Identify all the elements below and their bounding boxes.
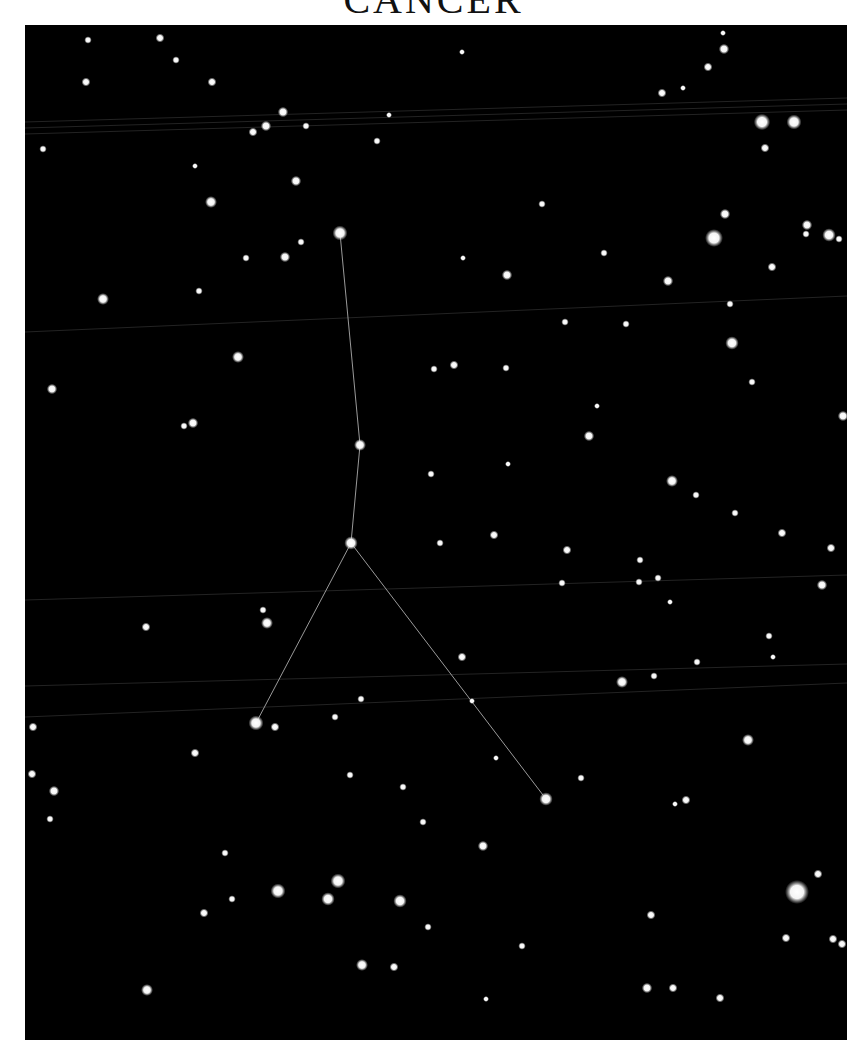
star <box>373 137 381 145</box>
star <box>28 770 37 779</box>
star <box>278 107 289 118</box>
star <box>271 884 286 899</box>
star <box>483 996 489 1002</box>
star <box>642 983 653 994</box>
star <box>817 580 828 591</box>
star <box>331 874 346 889</box>
star <box>802 230 810 238</box>
star <box>622 320 630 328</box>
star <box>636 556 644 564</box>
star <box>357 695 365 703</box>
star <box>188 418 199 429</box>
star <box>822 228 836 242</box>
star <box>538 200 546 208</box>
constellation-star-gamma <box>354 439 366 451</box>
constellation-star-iota <box>333 226 348 241</box>
constellation-line <box>256 543 351 723</box>
star <box>650 672 658 680</box>
constellation-star-alpha <box>249 716 264 731</box>
star <box>261 121 272 132</box>
star <box>761 144 770 153</box>
star <box>208 78 217 87</box>
constellation-line <box>340 233 360 445</box>
star <box>765 632 773 640</box>
star <box>82 78 91 87</box>
faint-line <box>25 110 847 134</box>
star <box>97 293 109 305</box>
star <box>838 411 847 422</box>
constellation-lines <box>256 233 546 799</box>
star <box>156 34 165 43</box>
star <box>493 755 499 761</box>
faint-line <box>25 664 847 686</box>
constellation-stars <box>249 226 553 806</box>
star <box>518 942 526 950</box>
star <box>29 723 38 732</box>
star <box>731 509 739 517</box>
star <box>49 786 60 797</box>
star <box>505 461 511 467</box>
star <box>460 255 466 261</box>
star <box>726 300 734 308</box>
star <box>563 546 572 555</box>
constellation-line <box>351 543 546 799</box>
star <box>705 229 723 247</box>
star <box>356 959 368 971</box>
star <box>478 841 489 852</box>
star <box>682 796 691 805</box>
star <box>142 623 151 632</box>
page-title: CANCER <box>0 0 867 22</box>
star <box>785 880 809 904</box>
star <box>291 176 302 187</box>
faint-line <box>25 296 847 332</box>
star <box>427 470 435 478</box>
star <box>502 364 510 372</box>
star-chart <box>25 25 847 1040</box>
star <box>346 771 354 779</box>
star <box>436 539 444 547</box>
star <box>200 909 209 918</box>
star <box>838 940 847 949</box>
star <box>261 617 273 629</box>
star <box>297 238 305 246</box>
star <box>141 984 153 996</box>
star <box>616 676 628 688</box>
star <box>754 114 771 131</box>
star <box>331 713 339 721</box>
star <box>386 112 392 118</box>
star <box>192 163 198 169</box>
star <box>704 63 713 72</box>
star <box>490 531 499 540</box>
star <box>748 378 756 386</box>
faint-line <box>25 683 847 717</box>
star <box>692 491 700 499</box>
faint-line <box>25 104 847 128</box>
star <box>719 44 730 55</box>
star <box>768 263 777 272</box>
star <box>459 49 465 55</box>
star <box>829 935 838 944</box>
star <box>280 252 291 263</box>
star <box>720 30 726 36</box>
star <box>221 849 229 857</box>
star <box>321 892 335 906</box>
star <box>720 209 731 220</box>
star <box>680 85 686 91</box>
star <box>458 653 467 662</box>
star <box>716 994 725 1003</box>
constellation-star-beta <box>539 792 553 806</box>
star <box>600 249 608 257</box>
constellation-star-delta <box>344 536 358 550</box>
star <box>647 911 656 920</box>
star <box>693 658 701 666</box>
star <box>232 351 244 363</box>
star <box>787 115 802 130</box>
star <box>663 276 674 287</box>
star <box>46 815 54 823</box>
star <box>419 818 427 826</box>
starfield-canvas <box>25 25 847 1040</box>
constellation-line <box>351 445 360 543</box>
star <box>667 599 673 605</box>
star <box>502 270 513 281</box>
star <box>180 422 188 430</box>
